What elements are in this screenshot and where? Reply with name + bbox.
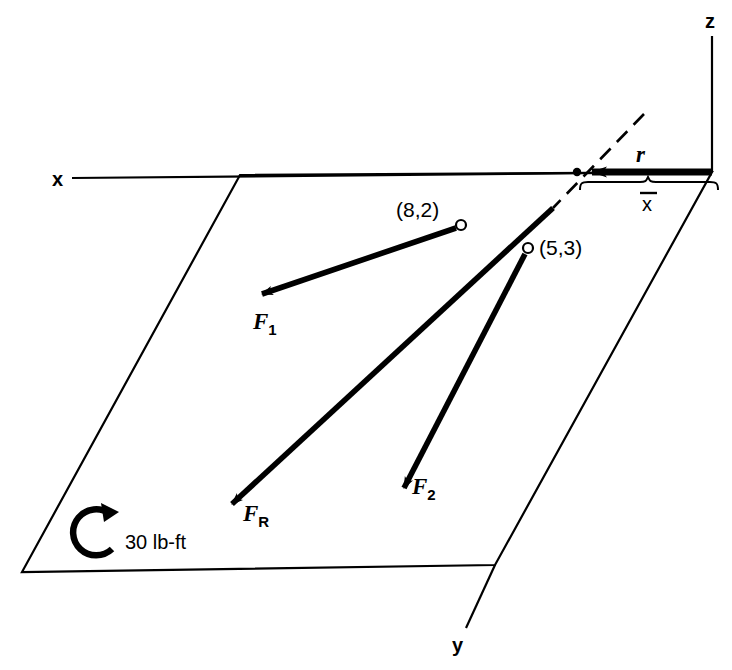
force-FR-label: FR xyxy=(242,501,269,530)
moment-couple-arrowhead xyxy=(101,503,119,522)
force-F1-label: F1 xyxy=(252,309,277,338)
force-F1-point-label: (8,2) xyxy=(396,198,439,221)
line-of-action-extension-dashed xyxy=(553,114,644,208)
diagram-canvas: x y z (8,2) (5,3) F1 F2 FR r x 30 lb-ft xyxy=(0,0,732,670)
position-vector-r-label: r xyxy=(636,142,646,167)
moment-couple-label: 30 lb-ft xyxy=(125,531,187,553)
y-axis-line xyxy=(466,565,495,628)
force-F2-point-label: (5,3) xyxy=(539,236,582,259)
force-F2-label: F2 xyxy=(411,474,436,503)
x-bar-brace xyxy=(580,177,718,190)
force-F1-application-point xyxy=(456,220,466,230)
y-axis-label: y xyxy=(452,634,464,656)
force-F1-shaft xyxy=(262,228,456,294)
z-axis-label: z xyxy=(705,10,715,32)
intersection-point-dot xyxy=(573,168,581,176)
x-axis-label: x xyxy=(52,168,63,190)
force-F2-application-point xyxy=(523,243,533,253)
reference-plane-outline xyxy=(22,172,712,572)
engineering-diagram: x y z (8,2) (5,3) F1 F2 FR r x 30 lb-ft xyxy=(0,0,732,670)
x-bar-dimension-label: x xyxy=(642,193,652,215)
